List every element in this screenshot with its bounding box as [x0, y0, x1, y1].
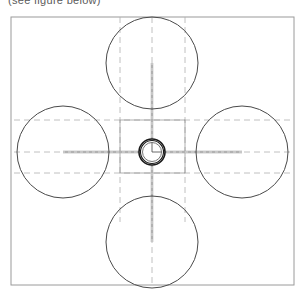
- technical-drawing-canvas: (see figure below): [0, 0, 305, 293]
- drawing-svg: [0, 0, 305, 293]
- central-hub-group: [139, 139, 165, 165]
